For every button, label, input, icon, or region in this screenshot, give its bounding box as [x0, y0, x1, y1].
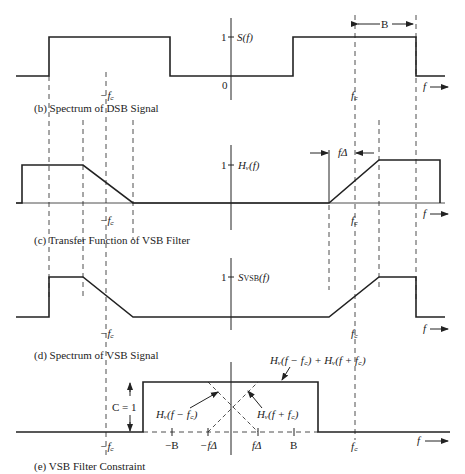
- left-shift-label: Hᵥ(f − f꜀): [156, 409, 197, 420]
- caption-c: (c) Transfer Function of VSB Filter: [34, 235, 190, 246]
- pos-fc-label-e: f꜀: [351, 441, 358, 452]
- caption-b: (b) Spectrum of DSB Signal: [34, 103, 159, 114]
- f-axis-label-b: f: [423, 81, 426, 92]
- y-tick-1-b: 1: [221, 32, 227, 43]
- constant-label: C = 1: [112, 402, 137, 413]
- neg-fc-label-c: −f꜀: [100, 215, 114, 226]
- pos-fc-label-c: f꜀: [351, 215, 358, 226]
- f-axis-label-e: f: [417, 435, 420, 446]
- origin-label: 0: [222, 80, 228, 91]
- neg-fc-label-b: −f꜀: [100, 90, 114, 101]
- pos-fc-label-b: f꜀: [351, 90, 358, 101]
- tick-b: B: [290, 440, 297, 451]
- y-tick-1-d: 1: [221, 272, 227, 283]
- caption-e: (e) VSB Filter Constraint: [34, 461, 145, 472]
- sum-label: Hᵥ(f − f꜀) + Hᵥ(f + f꜀): [270, 355, 366, 366]
- f-axis-label-d: f: [423, 323, 426, 334]
- y-tick-1-c: 1: [221, 160, 227, 171]
- ylabel-s-of-f: S(f): [237, 32, 253, 43]
- bandwidth-label: B: [381, 19, 388, 30]
- pos-fc-label-d: f꜀: [351, 328, 358, 339]
- tick-fdelta: fΔ: [252, 440, 262, 451]
- f-delta-label: fΔ: [338, 147, 348, 158]
- tick-neg-fdelta: −fΔ: [200, 440, 217, 451]
- neg-fc-label-d: −f꜀: [100, 328, 114, 339]
- caption-d: (d) Spectrum of VSB Signal: [34, 350, 158, 361]
- ylabel-hv-of-f: Hᵥ(f): [238, 160, 259, 171]
- f-axis-label-c: f: [423, 208, 426, 219]
- neg-fc-label-e: −f꜀: [100, 441, 114, 452]
- tick-neg-b: −B: [165, 440, 179, 451]
- right-shift-label: Hᵥ(f + f꜀): [257, 409, 298, 420]
- ylabel-svsb: SVSB(f): [238, 272, 269, 283]
